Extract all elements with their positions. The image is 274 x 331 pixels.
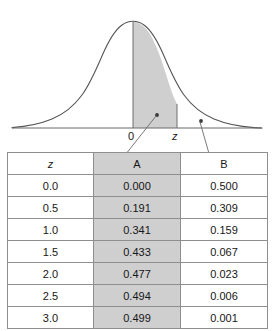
cell-z: 0.0 — [8, 175, 94, 197]
cell-a: 0.499 — [94, 307, 181, 329]
cell-a: 0.191 — [94, 197, 181, 219]
cell-z: 1.5 — [8, 241, 94, 263]
callout-leader-B — [200, 122, 212, 152]
normal-curve-figure: 0 z — [0, 0, 274, 152]
cell-z: 0.5 — [8, 197, 94, 219]
cell-a: 0.477 — [94, 263, 181, 285]
axis-label-zero: 0 — [128, 131, 134, 142]
cell-z: 3.0 — [8, 307, 94, 329]
cell-b: 0.159 — [181, 219, 268, 241]
table-header-row: z A B — [8, 153, 268, 175]
cell-b: 0.023 — [181, 263, 268, 285]
table-row: 3.0 0.499 0.001 — [8, 307, 268, 329]
cell-b: 0.006 — [181, 285, 268, 307]
cell-b: 0.067 — [181, 241, 268, 263]
table-row: 0.5 0.191 0.309 — [8, 197, 268, 219]
table-row: 0.0 0.000 0.500 — [8, 175, 268, 197]
z-score-area-table: z A B 0.0 0.000 0.500 0.5 0.191 0.309 1.… — [7, 152, 268, 329]
cell-z: 2.5 — [8, 285, 94, 307]
table-row: 1.5 0.433 0.067 — [8, 241, 268, 263]
cell-b: 0.500 — [181, 175, 268, 197]
cell-a: 0.000 — [94, 175, 181, 197]
cell-b: 0.001 — [181, 307, 268, 329]
cell-z: 1.0 — [8, 219, 94, 241]
column-header-a: A — [94, 153, 181, 175]
cell-z: 2.0 — [8, 263, 94, 285]
table-row: 1.0 0.341 0.159 — [8, 219, 268, 241]
table-row: 2.0 0.477 0.023 — [8, 263, 268, 285]
table-row: 2.5 0.494 0.006 — [8, 285, 268, 307]
axis-label-z: z — [172, 131, 178, 142]
column-header-b: B — [181, 153, 268, 175]
column-header-z: z — [8, 153, 94, 175]
cell-a: 0.433 — [94, 241, 181, 263]
cell-b: 0.309 — [181, 197, 268, 219]
cell-a: 0.494 — [94, 285, 181, 307]
cell-a: 0.341 — [94, 219, 181, 241]
